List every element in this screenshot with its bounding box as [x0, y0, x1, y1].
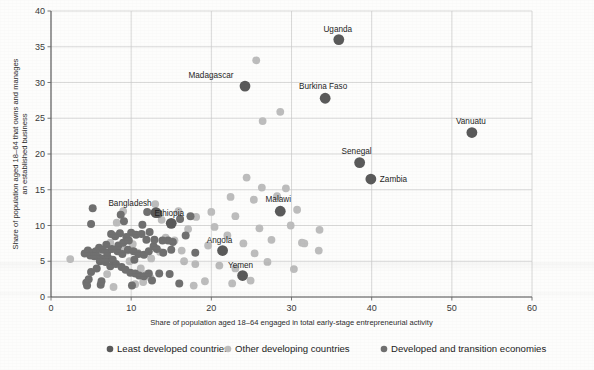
y-tick-label: 20 — [35, 149, 45, 159]
data-point — [89, 204, 97, 212]
data-point-labeled — [166, 218, 177, 229]
data-point — [215, 262, 223, 270]
y-tick-label: 30 — [35, 78, 45, 88]
data-point — [107, 230, 115, 238]
data-point — [231, 212, 239, 220]
data-point — [240, 239, 248, 247]
data-point — [120, 217, 128, 225]
data-point-labeled — [320, 93, 331, 104]
point-label: Burkina Faso — [299, 82, 348, 91]
x-tick-label: 60 — [527, 303, 537, 313]
data-point — [158, 237, 166, 245]
y-axis-title: an established business — [20, 113, 29, 194]
data-point — [256, 224, 264, 232]
data-point — [287, 222, 295, 230]
data-point — [201, 277, 209, 285]
data-point — [87, 220, 95, 228]
point-label: Ethiopia — [154, 209, 184, 218]
data-point — [178, 247, 186, 255]
data-points-layer — [66, 34, 477, 291]
data-point — [276, 108, 284, 116]
data-point — [191, 260, 199, 268]
y-tick-label: 5 — [40, 256, 45, 266]
data-point — [264, 258, 272, 266]
point-label: Madagascar — [188, 71, 233, 80]
data-point — [207, 208, 215, 216]
data-point — [186, 212, 194, 220]
x-tick-label: 50 — [447, 303, 457, 313]
data-point — [103, 270, 111, 278]
legend-marker-icon — [107, 346, 114, 353]
data-point — [145, 269, 153, 277]
data-point — [282, 184, 290, 192]
x-tick-label: 10 — [126, 303, 136, 313]
data-point — [159, 249, 167, 257]
data-point-labeled — [217, 245, 228, 256]
chart-canvas: 05101520253035400102030405060 Madagascar… — [0, 0, 594, 370]
data-point — [243, 174, 251, 182]
data-point — [166, 270, 174, 278]
data-point — [130, 256, 138, 264]
y-tick-label: 35 — [35, 42, 45, 52]
y-tick-label: 10 — [35, 221, 45, 231]
data-point — [293, 206, 301, 214]
data-point — [182, 232, 190, 240]
data-point — [93, 264, 101, 272]
data-point — [128, 282, 136, 290]
data-point — [98, 277, 106, 285]
legend-marker-icon — [225, 346, 232, 353]
data-point — [113, 219, 121, 227]
data-point — [251, 249, 259, 257]
data-point — [227, 193, 235, 201]
data-point — [85, 275, 93, 283]
y-tick-label: 25 — [35, 113, 45, 123]
data-point — [175, 279, 183, 287]
data-point — [190, 282, 198, 290]
data-point — [66, 255, 74, 263]
point-label: Vanuatu — [456, 117, 486, 126]
data-point-labeled — [237, 270, 248, 281]
x-tick-label: 30 — [286, 303, 296, 313]
legend-label[interactable]: Least developed countries — [117, 343, 229, 354]
data-point — [146, 228, 154, 236]
data-point-labeled — [275, 206, 286, 217]
data-point — [315, 247, 323, 255]
legend-label[interactable]: Other developing countries — [235, 343, 350, 354]
data-point — [110, 283, 118, 291]
data-point — [151, 200, 159, 208]
x-tick-label: 40 — [367, 303, 377, 313]
data-point — [147, 254, 155, 262]
point-label: Senegal — [342, 147, 372, 156]
data-point-labeled — [333, 34, 344, 45]
data-point — [143, 208, 151, 216]
data-point — [155, 269, 163, 277]
point-label: Malawi — [266, 195, 292, 204]
data-point — [228, 280, 236, 288]
x-tick-label: 0 — [48, 303, 53, 313]
point-label: Zambia — [380, 175, 408, 184]
data-point — [125, 237, 133, 245]
data-point — [211, 223, 219, 231]
data-point-labeled — [240, 81, 251, 92]
point-label: Bangladesh — [108, 199, 152, 208]
data-point — [290, 265, 298, 273]
data-point — [150, 236, 158, 244]
data-point — [180, 257, 188, 265]
x-tick-label: 20 — [206, 303, 216, 313]
legend-label[interactable]: Developed and transition economies — [391, 343, 546, 354]
data-point — [138, 221, 146, 229]
y-tick-label: 15 — [35, 185, 45, 195]
data-point — [191, 249, 199, 257]
data-point — [258, 184, 266, 192]
point-label: Yemen — [228, 261, 254, 270]
x-axis-title: Share of population aged 18–64 engaged i… — [150, 318, 433, 327]
data-point-labeled — [466, 127, 477, 138]
data-point — [252, 56, 260, 64]
data-point-labeled — [365, 174, 376, 185]
chart-legend: Least developed countriesOther developin… — [107, 343, 547, 354]
data-point — [300, 239, 308, 247]
data-point — [167, 246, 175, 254]
data-point — [169, 238, 177, 246]
data-point — [247, 277, 255, 285]
data-point — [259, 117, 267, 125]
